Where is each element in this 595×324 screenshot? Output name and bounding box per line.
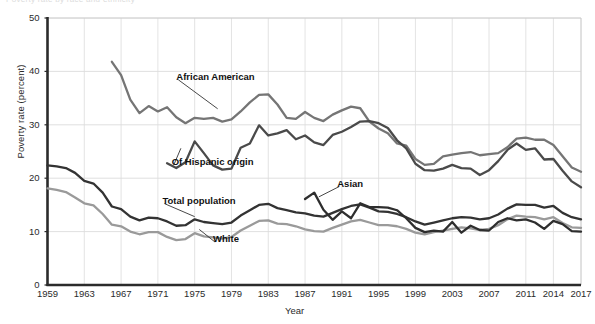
y-axis-title: Poverty rate (percent) [15, 52, 26, 172]
annotation-label-total-population: Total population [162, 195, 235, 206]
series-line-of-hispanic-origin [167, 121, 581, 187]
x-tick-label: 1959 [31, 288, 65, 299]
annotation-label-of-hispanic-origin: Of Hispanic origin [172, 156, 254, 167]
leader-line [178, 80, 217, 109]
y-tick-label: 10 [14, 226, 40, 237]
x-tick-label: 1991 [325, 288, 359, 299]
x-tick-label: 1963 [67, 288, 101, 299]
series-line-total-population [48, 165, 582, 225]
y-tick-label: 50 [14, 12, 40, 23]
x-tick-label: 1971 [141, 288, 175, 299]
poverty-rate-chart-figure: Poverty rate by race and ethnicity 01020… [0, 0, 595, 324]
chart-plot-area [0, 0, 595, 324]
x-tick-label: 2003 [435, 288, 469, 299]
x-tick-label: 1979 [214, 288, 248, 299]
x-tick-label: 1987 [288, 288, 322, 299]
annotation-label-asian: Asian [337, 178, 363, 189]
annotation-label-african-american: African American [176, 71, 254, 82]
x-axis-title: Year [285, 305, 304, 316]
x-tick-label: 2017 [564, 288, 595, 299]
x-tick-label: 1983 [251, 288, 285, 299]
x-tick-label: 1967 [104, 288, 138, 299]
annotation-label-white: White [213, 233, 239, 244]
x-tick-label: 1975 [178, 288, 212, 299]
data-series-group [48, 62, 582, 240]
x-tick-label: 1995 [362, 288, 396, 299]
x-tick-label: 2007 [472, 288, 506, 299]
series-line-asian [305, 193, 581, 233]
y-tick-label: 20 [14, 172, 40, 183]
x-tick-label: 1999 [398, 288, 432, 299]
leader-line [319, 187, 339, 197]
